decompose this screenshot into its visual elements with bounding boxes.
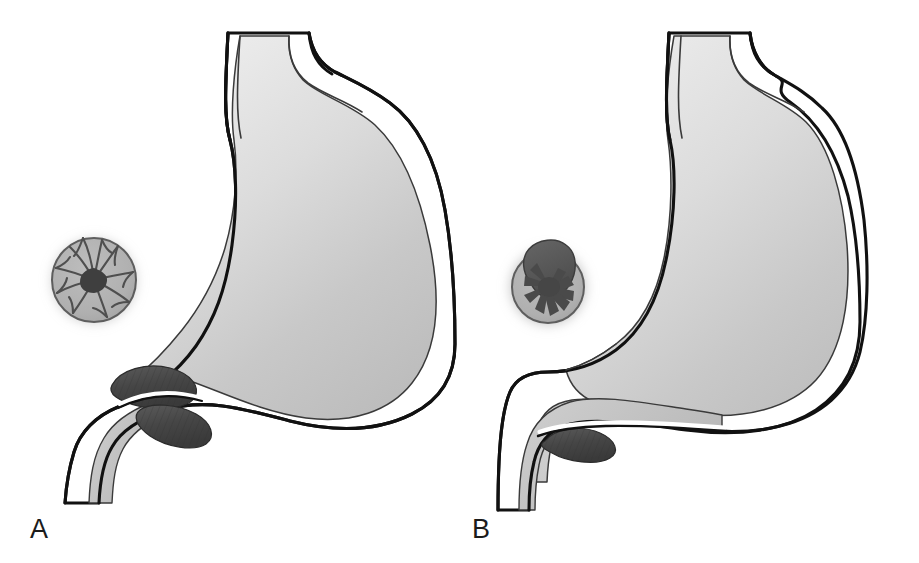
lesion-core-b	[538, 277, 560, 297]
mucosa-inset-a	[46, 233, 142, 329]
panel-label-a: A	[30, 514, 49, 544]
illustration-svg: A	[0, 0, 919, 563]
figure-canvas: A	[0, 0, 919, 563]
panel-label-b: B	[472, 514, 491, 544]
